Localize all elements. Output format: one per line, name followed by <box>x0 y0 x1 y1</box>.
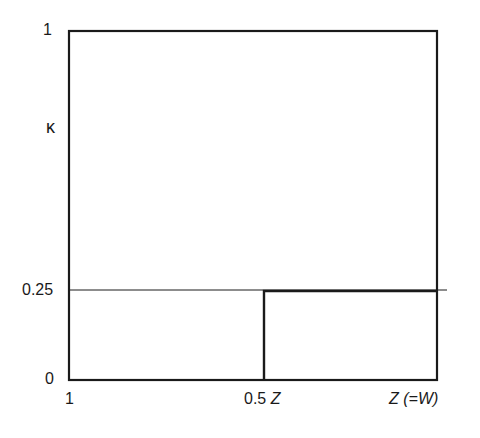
x-tick-half-number: 0.5 <box>244 390 266 407</box>
x-tick-1: 1 <box>65 390 74 408</box>
y-axis-label-kappa: κ <box>46 118 55 136</box>
x-tick-z-equals-w: Z (=W) <box>389 390 438 408</box>
y-tick-1: 1 <box>43 21 52 39</box>
x-tick-half-variable: Z <box>271 390 281 407</box>
step-line <box>264 291 437 380</box>
chart-canvas <box>0 0 480 438</box>
plot-frame <box>69 31 437 380</box>
y-tick-0: 0 <box>45 370 54 388</box>
y-tick-0.25: 0.25 <box>22 281 53 299</box>
x-tick-half-z: 0.5 Z <box>244 390 280 408</box>
